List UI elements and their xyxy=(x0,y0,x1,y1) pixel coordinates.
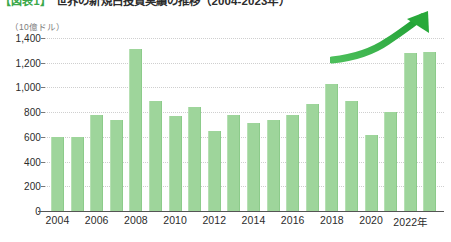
plot-area xyxy=(45,38,444,211)
y-axis-tick-label: 400 xyxy=(0,156,41,167)
bar xyxy=(188,107,201,211)
x-axis-tick-label: 2012 xyxy=(202,214,226,226)
y-axis-tick-label: 0 xyxy=(0,206,41,217)
x-axis-tick-label: 2014 xyxy=(242,214,266,226)
bar xyxy=(286,115,299,211)
bar xyxy=(404,53,417,211)
bar xyxy=(306,104,319,212)
x-axis-tick-label: 2004 xyxy=(46,214,70,226)
bar-series xyxy=(45,38,444,211)
bar xyxy=(71,137,84,211)
x-axis-tick-label: 2022年 xyxy=(393,214,427,229)
y-axis-tick-label: 1,400 xyxy=(0,33,41,44)
bar xyxy=(90,115,103,211)
x-axis-tick-label: 2018 xyxy=(320,214,344,226)
y-axis-unit-label: （10億ドル） xyxy=(10,20,65,32)
bar xyxy=(208,131,221,211)
page-title: 世界の新規白投資実績の推移（2004-2023年） xyxy=(56,0,290,8)
x-axis-tick-label: 2010 xyxy=(163,214,187,226)
figure-title-row: 【図表1】 世界の新規白投資実績の推移（2004-2023年） xyxy=(0,0,290,9)
bar xyxy=(325,84,338,211)
bar xyxy=(149,101,162,211)
x-axis-tick-label: 2008 xyxy=(124,214,148,226)
bar xyxy=(267,120,280,211)
x-axis-tick-label: 2020 xyxy=(359,214,383,226)
figure-number-tag: 【図表1】 xyxy=(0,0,51,8)
y-axis-tick-label: 600 xyxy=(0,131,41,142)
x-axis-labels: 2004200620082010201220142016201820202022… xyxy=(45,214,451,230)
y-axis-tick-label: 1,000 xyxy=(0,82,41,93)
y-axis-tick-label: 800 xyxy=(0,107,41,118)
bar xyxy=(169,116,182,211)
bar xyxy=(227,115,240,211)
x-axis-tick-label: 2016 xyxy=(281,214,305,226)
bar xyxy=(365,135,378,211)
y-axis-labels: 02004006008001,0001,2001,400 xyxy=(0,38,41,211)
bar xyxy=(345,101,358,211)
chart-figure: 【図表1】 世界の新規白投資実績の推移（2004-2023年） （10億ドル） … xyxy=(0,0,451,242)
y-axis-tick-label: 1,200 xyxy=(0,57,41,68)
bar xyxy=(384,112,397,211)
x-axis-tick-label: 2006 xyxy=(85,214,109,226)
bar xyxy=(247,123,260,211)
x-axis-line xyxy=(38,211,444,212)
bar xyxy=(129,49,142,211)
bar xyxy=(110,120,123,211)
bar xyxy=(423,52,436,211)
bar xyxy=(51,137,64,211)
y-axis-tick-label: 200 xyxy=(0,181,41,192)
